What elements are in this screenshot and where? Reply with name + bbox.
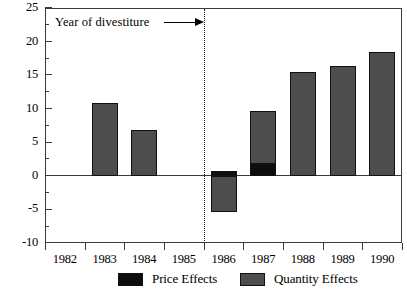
legend-label-quantity: Quantity Effects [274, 271, 358, 287]
arrow-shaft [164, 22, 195, 23]
legend-swatch-quantity-icon [240, 273, 265, 286]
legend-label-price: Price Effects [152, 271, 217, 287]
bar-price-1986 [211, 171, 237, 176]
y-tick-minor [45, 125, 49, 126]
y-tick-label: 15 [4, 68, 38, 80]
bar-quantity-1983 [92, 103, 118, 176]
x-tick [85, 243, 86, 250]
legend-swatch-price-icon [118, 273, 143, 286]
x-tick [283, 243, 284, 250]
y-tick-label: 10 [4, 102, 38, 114]
bar-quantity-1987 [250, 111, 276, 164]
x-tick-label-1990: 1990 [354, 252, 407, 267]
x-tick [164, 243, 165, 250]
y-tick-minor [45, 158, 49, 159]
bar-chart: 2520151050-5-10 Year of divestiture 1982… [0, 0, 407, 296]
x-tick [323, 243, 324, 250]
y-tick-major [45, 74, 52, 75]
y-tick-major [45, 242, 52, 243]
y-tick-label: 20 [4, 35, 38, 47]
y-tick-minor [45, 226, 49, 227]
y-tick-minor [45, 192, 49, 193]
chart-legend: Price Effects Quantity Effects [0, 268, 407, 292]
y-tick-major [45, 108, 52, 109]
bar-price-1987 [250, 164, 276, 176]
x-tick [204, 243, 205, 250]
y-tick-minor [45, 58, 49, 59]
bar-quantity-1989 [330, 66, 356, 176]
y-tick-minor [45, 24, 49, 25]
y-tick-label: -10 [4, 236, 38, 248]
y-tick-label: 5 [4, 135, 38, 147]
bar-quantity-1984 [131, 130, 157, 176]
y-tick-major [45, 41, 52, 42]
legend-item-price-effects: Price Effects [118, 271, 217, 287]
y-tick-label: -5 [4, 202, 38, 214]
arrow-head [195, 18, 204, 26]
divestiture-marker-line [204, 9, 205, 243]
x-tick [124, 243, 125, 250]
bar-quantity-1988 [290, 72, 316, 176]
bar-quantity-1990 [369, 52, 395, 176]
bar-quantity-1986 [211, 176, 237, 212]
y-tick-label: 25 [4, 1, 38, 13]
y-tick-minor [45, 91, 49, 92]
x-tick [243, 243, 244, 250]
divestiture-annotation-label: Year of divestiture [55, 15, 149, 30]
legend-item-quantity-effects: Quantity Effects [240, 271, 358, 287]
y-tick-major [45, 142, 52, 143]
x-tick [362, 243, 363, 250]
x-tick [402, 243, 403, 250]
y-tick-major [45, 209, 52, 210]
y-tick-major [45, 7, 52, 8]
y-tick-label: 0 [4, 169, 38, 181]
x-tick [45, 243, 46, 250]
